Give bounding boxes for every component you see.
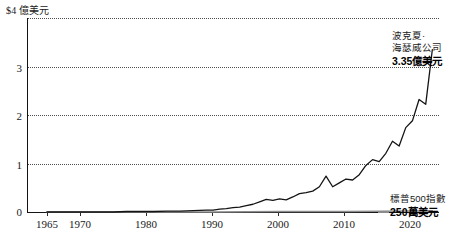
annotation-sp500-line1: 標普500指數 [390, 193, 446, 205]
annotation-berkshire-value: 3.35億美元 [392, 55, 442, 68]
annotation-berkshire-line1: 波克夏· [392, 30, 442, 42]
sp500-legend-dash [378, 211, 389, 213]
annotation-berkshire-line2: 海瑟威公司 [392, 42, 442, 54]
annotation-sp500-value: 250萬美元 [390, 206, 446, 219]
annotation-berkshire: 波克夏· 海瑟威公司 3.35億美元 [392, 30, 442, 68]
chart-container: $4 億美元 3 2 1 0 1965 1970 1980 1990 2000 … [0, 0, 454, 248]
annotation-sp500: 標普500指數 250萬美元 [390, 193, 446, 219]
series-line-berkshire [47, 50, 432, 212]
